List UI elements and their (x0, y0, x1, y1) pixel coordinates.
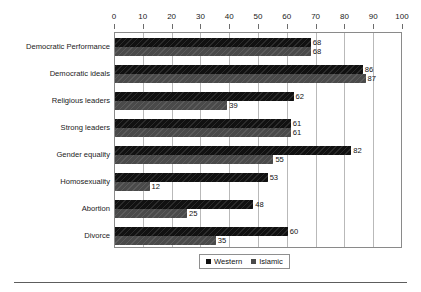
x-axis-tick-label: 20 (167, 12, 176, 21)
legend-item: Western (206, 257, 242, 266)
x-axis-tick-label: 90 (369, 12, 378, 21)
x-axis-tick-label: 0 (112, 12, 116, 21)
bar-islamic (115, 236, 216, 245)
bar-islamic (115, 128, 291, 137)
plot-area: 68688687623961618255531248256035 (114, 32, 402, 248)
x-axis-tick (172, 24, 173, 29)
bar-value-label: 61 (291, 128, 301, 137)
x-axis-tick-label: 60 (282, 12, 291, 21)
bar-value-label: 12 (150, 182, 160, 191)
x-axis-tick-label: 50 (254, 12, 263, 21)
x-axis: 0102030405060708090100 (114, 24, 402, 32)
x-axis-tick (200, 24, 201, 29)
bar-western (115, 173, 268, 182)
x-axis-tick (229, 24, 230, 29)
x-axis-tick (287, 24, 288, 29)
category-label: Homosexuality (2, 176, 110, 185)
bar-western (115, 65, 363, 74)
bar-value-label: 62 (294, 92, 304, 101)
bar-value-label: 48 (253, 200, 263, 209)
category-label: Divorce (2, 230, 110, 239)
x-axis-tick (258, 24, 259, 29)
x-axis-tick-label: 100 (395, 12, 408, 21)
bar-value-label: 61 (291, 119, 301, 128)
x-axis-tick (316, 24, 317, 29)
gridline (373, 33, 374, 247)
bar-value-label: 86 (363, 65, 373, 74)
bar-value-label: 60 (288, 227, 298, 236)
bar-western (115, 92, 294, 101)
legend-item: Islamic (251, 257, 283, 266)
bar-value-label: 68 (311, 47, 321, 56)
bar-islamic (115, 101, 227, 110)
x-axis-tick (373, 24, 374, 29)
footer-divider (14, 282, 407, 283)
bar-value-label: 82 (351, 146, 361, 155)
legend-label: Islamic (259, 257, 283, 266)
x-axis-tick-label: 30 (196, 12, 205, 21)
legend: WesternIslamic (199, 254, 290, 269)
x-axis-tick (114, 24, 115, 29)
bar-western (115, 146, 351, 155)
bar-western (115, 38, 311, 47)
bar-islamic (115, 155, 273, 164)
x-axis-tick (344, 24, 345, 29)
bar-value-label: 87 (366, 74, 376, 83)
category-axis-labels: Democratic PerformanceDemocratic idealsR… (0, 32, 110, 248)
category-label: Democratic ideals (2, 68, 110, 77)
x-axis-tick-label: 80 (340, 12, 349, 21)
x-axis-tick-label: 40 (225, 12, 234, 21)
bar-islamic (115, 74, 366, 83)
category-label: Religious leaders (2, 95, 110, 104)
bar-western (115, 200, 253, 209)
x-axis-tick (402, 24, 403, 29)
bar-value-label: 53 (268, 173, 278, 182)
legend-swatch-icon (251, 259, 256, 264)
category-label: Democratic Performance (2, 41, 110, 50)
category-label: Strong leaders (2, 122, 110, 131)
bar-chart: 0102030405060708090100 Democratic Perfor… (0, 0, 421, 292)
category-label: Gender equality (2, 149, 110, 158)
bar-western (115, 227, 288, 236)
bar-value-label: 39 (227, 101, 237, 110)
bar-islamic (115, 182, 150, 191)
x-axis-tick-label: 10 (138, 12, 147, 21)
legend-label: Western (214, 257, 242, 266)
bar-islamic (115, 47, 311, 56)
bar-value-label: 25 (187, 209, 197, 218)
bar-islamic (115, 209, 187, 218)
legend-swatch-icon (206, 259, 211, 264)
x-axis-tick (143, 24, 144, 29)
bar-western (115, 119, 291, 128)
bar-value-label: 35 (216, 236, 226, 245)
category-label: Abortion (2, 203, 110, 212)
bar-value-label: 55 (273, 155, 283, 164)
bar-value-label: 68 (311, 38, 321, 47)
x-axis-tick-label: 70 (311, 12, 320, 21)
